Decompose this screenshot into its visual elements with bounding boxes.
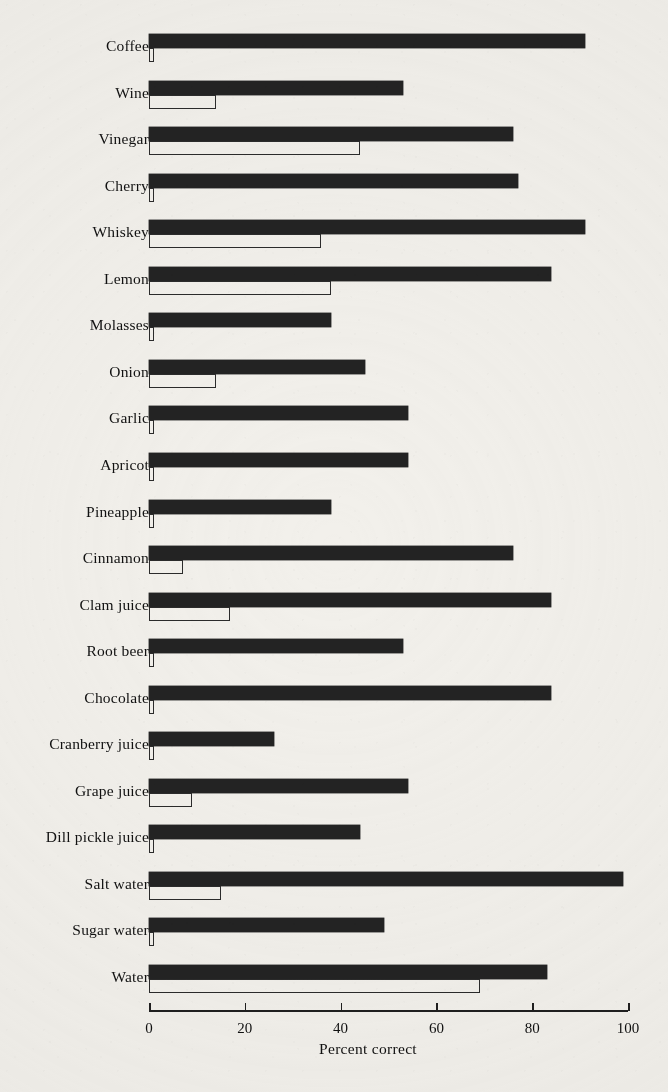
bar-solid — [149, 918, 384, 932]
category-label: Clam juice — [0, 597, 149, 612]
x-axis-tick — [532, 1003, 534, 1011]
bar-open — [149, 932, 154, 946]
x-axis-line: 020406080100 — [149, 1010, 628, 1012]
category-label: Lemon — [0, 271, 149, 286]
x-axis-title-text: Percent correct — [319, 1040, 417, 1058]
bar-open — [149, 188, 154, 202]
category-label: Onion — [0, 364, 149, 379]
bar-row: Vinegar — [0, 127, 668, 157]
x-axis-tick — [245, 1003, 247, 1011]
bar-solid — [149, 267, 551, 281]
bar-solid — [149, 686, 551, 700]
bar-row: Lemon — [0, 267, 668, 297]
bar-solid — [149, 965, 547, 979]
bar-row: Cherry — [0, 174, 668, 204]
bar-solid — [149, 174, 518, 188]
category-label: Molasses — [0, 317, 149, 332]
bar-row: Whiskey — [0, 220, 668, 250]
x-axis-tick-label: 20 — [237, 1020, 252, 1037]
bar-open — [149, 374, 216, 388]
x-axis-tick-label: 60 — [429, 1020, 444, 1037]
bar-open — [149, 234, 321, 248]
category-label: Chocolate — [0, 690, 149, 705]
category-label: Cherry — [0, 178, 149, 193]
bar-solid — [149, 453, 408, 467]
bar-row: Grape juice — [0, 779, 668, 809]
bar-row: Coffee — [0, 34, 668, 64]
bar-open — [149, 653, 154, 667]
category-label: Coffee — [0, 38, 149, 53]
bar-row: Garlic — [0, 406, 668, 436]
bar-solid — [149, 34, 585, 48]
x-axis-tick-label: 80 — [525, 1020, 540, 1037]
bar-solid — [149, 220, 585, 234]
category-label: Root beer — [0, 643, 149, 658]
bar-solid — [149, 81, 403, 95]
bar-open — [149, 95, 216, 109]
category-label: Salt water — [0, 876, 149, 891]
category-label: Cinnamon — [0, 550, 149, 565]
bar-row: Chocolate — [0, 686, 668, 716]
x-axis-title: Percent correct — [0, 1040, 668, 1058]
bar-solid — [149, 872, 623, 886]
category-label: Whiskey — [0, 224, 149, 239]
x-axis-tick-label: 100 — [617, 1020, 640, 1037]
bar-open — [149, 607, 230, 621]
category-label: Wine — [0, 85, 149, 100]
bar-row: Cranberry juice — [0, 732, 668, 762]
bar-open — [149, 979, 480, 993]
bar-open — [149, 48, 154, 62]
bar-solid — [149, 406, 408, 420]
x-axis-tick-label: 40 — [333, 1020, 348, 1037]
bar-row: Onion — [0, 360, 668, 390]
bar-solid — [149, 639, 403, 653]
bar-open — [149, 560, 183, 574]
bar-solid — [149, 313, 331, 327]
bar-row: Clam juice — [0, 593, 668, 623]
bar-open — [149, 281, 331, 295]
x-axis-tick — [628, 1003, 630, 1011]
bar-solid — [149, 360, 365, 374]
bar-row: Salt water — [0, 872, 668, 902]
bar-row: Water — [0, 965, 668, 995]
bar-open — [149, 886, 221, 900]
bar-open — [149, 141, 360, 155]
bar-solid — [149, 593, 551, 607]
category-label: Garlic — [0, 410, 149, 425]
bar-open — [149, 839, 154, 853]
bar-solid — [149, 825, 360, 839]
bar-row: Root beer — [0, 639, 668, 669]
bar-open — [149, 327, 154, 341]
category-label: Water — [0, 969, 149, 984]
bar-open — [149, 514, 154, 528]
bar-solid — [149, 546, 513, 560]
horizontal-bar-chart: CoffeeWineVinegarCherryWhiskeyLemonMolas… — [0, 0, 668, 1092]
bar-solid — [149, 127, 513, 141]
bar-open — [149, 793, 192, 807]
x-axis-tick — [341, 1003, 343, 1011]
bar-solid — [149, 732, 274, 746]
category-label: Dill pickle juice — [0, 829, 149, 844]
category-label: Vinegar — [0, 131, 149, 146]
category-label: Cranberry juice — [0, 736, 149, 751]
category-label: Apricot — [0, 457, 149, 472]
bar-row: Cinnamon — [0, 546, 668, 576]
bar-row: Pineapple — [0, 500, 668, 530]
bar-row: Sugar water — [0, 918, 668, 948]
category-label: Grape juice — [0, 783, 149, 798]
bar-row: Dill pickle juice — [0, 825, 668, 855]
bar-open — [149, 467, 154, 481]
bar-open — [149, 746, 154, 760]
x-axis-tick-label: 0 — [145, 1020, 153, 1037]
x-axis-tick — [436, 1003, 438, 1011]
bar-row: Apricot — [0, 453, 668, 483]
category-label: Pineapple — [0, 504, 149, 519]
bar-solid — [149, 500, 331, 514]
bar-open — [149, 700, 154, 714]
bar-row: Wine — [0, 81, 668, 111]
category-label: Sugar water — [0, 922, 149, 937]
bar-solid — [149, 779, 408, 793]
x-axis-tick — [149, 1003, 151, 1011]
bar-row: Molasses — [0, 313, 668, 343]
bar-open — [149, 420, 154, 434]
